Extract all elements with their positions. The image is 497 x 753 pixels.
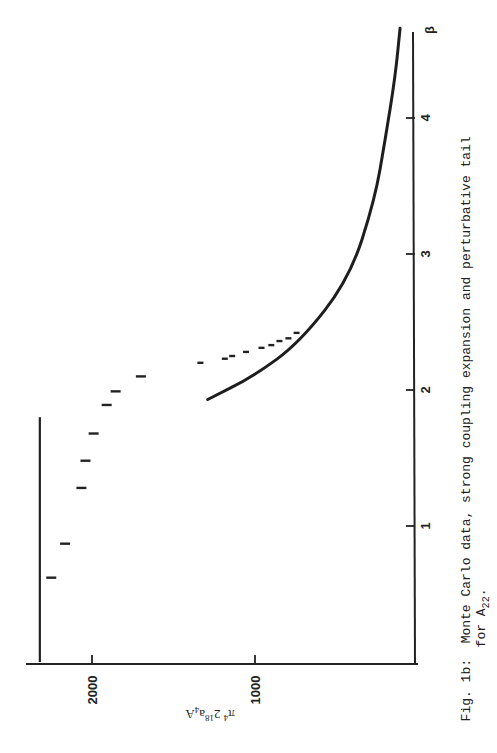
beta-tick-label: 1 bbox=[418, 522, 433, 529]
caption-text-line1: Monte Carlo data, strong coupling expans… bbox=[459, 136, 474, 643]
perturbative-tail-series bbox=[208, 28, 400, 399]
beta-ticks: 1234 bbox=[406, 114, 433, 530]
svg-text:π4 218a4A: π4 218a4A bbox=[185, 705, 235, 723]
value-ticks: 10002000 bbox=[85, 655, 263, 704]
beta-tick-label: 3 bbox=[418, 250, 433, 257]
value-tick-label: 2000 bbox=[85, 676, 100, 705]
perturbative-tail-curve bbox=[208, 28, 400, 399]
beta-axis-label: β bbox=[422, 26, 437, 34]
value-axis-label: π4 218a4A bbox=[185, 705, 235, 723]
value-tick-label: 1000 bbox=[248, 676, 263, 705]
beta-tick-label: 2 bbox=[418, 386, 433, 393]
beta-tick-label: 4 bbox=[418, 114, 433, 122]
figure-caption-line2: for A22. bbox=[461, 589, 494, 663]
beta-axis-line bbox=[413, 32, 415, 664]
axes bbox=[26, 32, 418, 664]
caption-label: Fig. 1b: bbox=[459, 659, 474, 721]
chart-figure: 1234 10002000 β π4 218a4A bbox=[0, 0, 497, 753]
